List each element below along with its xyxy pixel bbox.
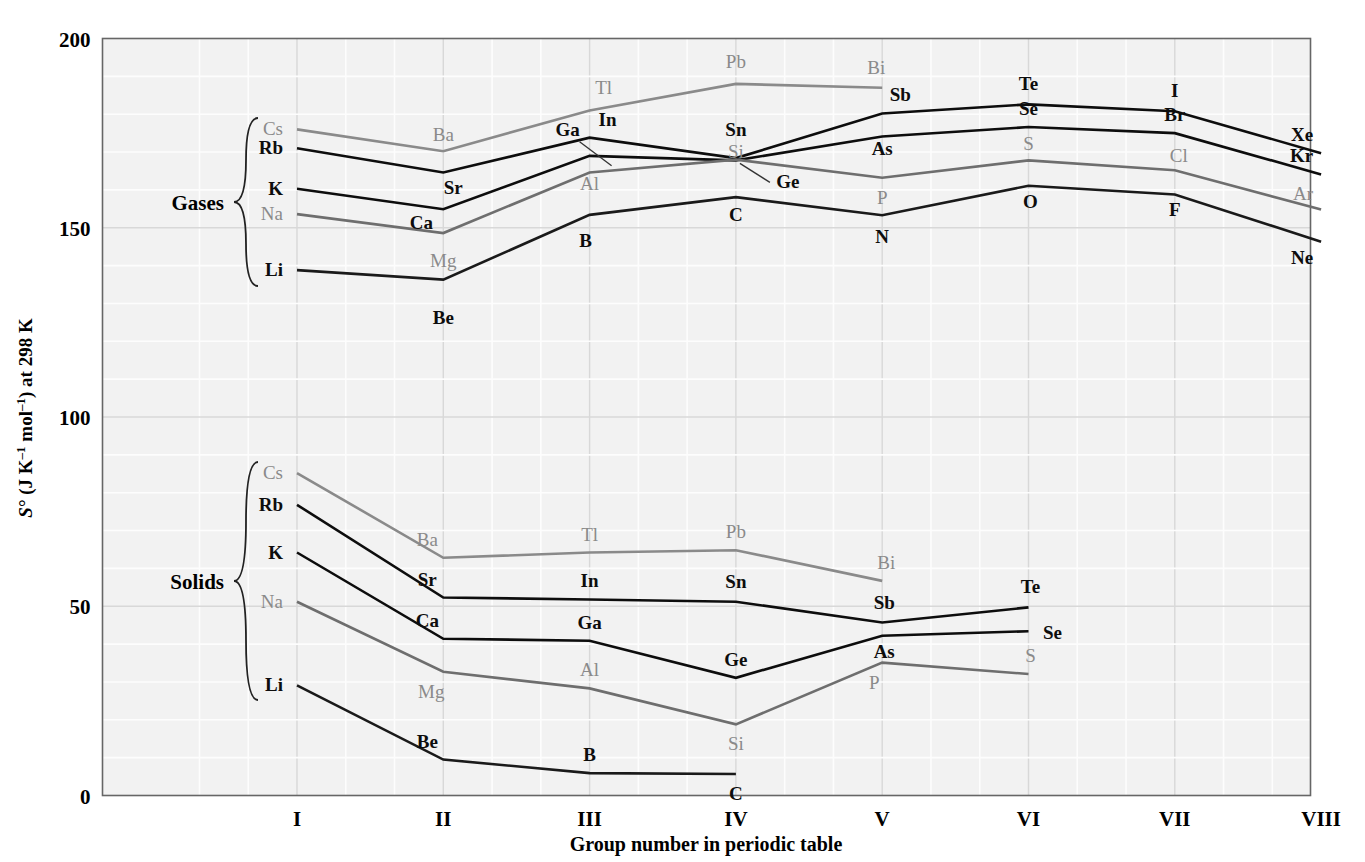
x-tick-label-VI: VI — [1017, 807, 1040, 831]
point-label-solid-Li: Li — [265, 674, 283, 695]
point-label-solid-Rb: Rb — [259, 494, 283, 515]
y-tick-label: 50 — [70, 595, 91, 619]
point-label-solid-Ga: Ga — [577, 612, 602, 633]
y-title-part: ) at 298 K — [15, 318, 37, 398]
point-label-solid-Na: Na — [261, 591, 284, 612]
point-label-solid-Sr: Sr — [418, 569, 438, 590]
point-label-solid-Bi: Bi — [877, 552, 895, 573]
point-label-gas-K: K — [268, 178, 283, 199]
x-tick-label-V: V — [875, 807, 890, 831]
point-label-gas-O: O — [1023, 191, 1038, 212]
entropy-vs-group-chart: 200150100500 IIIIIIIVVVIVIIVIII CsBaTlPb… — [0, 0, 1365, 862]
x-tick-label-IV: IV — [724, 807, 747, 831]
x-axis-title: Group number in periodic table — [570, 833, 843, 856]
x-tick-label-III: III — [577, 807, 602, 831]
point-label-solid-S: S — [1025, 645, 1036, 666]
y-title-part: –1 — [13, 398, 28, 412]
point-label-gas-P: P — [877, 187, 888, 208]
point-label-gas-Ar: Ar — [1293, 183, 1314, 204]
x-tick-label-I: I — [293, 807, 301, 831]
point-label-gas-Sb: Sb — [890, 84, 911, 105]
point-label-solid-P: P — [869, 672, 880, 693]
point-label-gas-F: F — [1169, 199, 1181, 220]
point-label-solid-Sn: Sn — [725, 571, 747, 592]
point-label-gas-Ca: Ca — [410, 212, 434, 233]
y-title-part: S — [15, 507, 36, 518]
x-tick-label-VIII: VIII — [1301, 807, 1341, 831]
point-label-solid-C: C — [729, 783, 743, 804]
point-label-solid-In: In — [581, 570, 599, 591]
point-label-gas-Ge: Ge — [776, 171, 799, 192]
point-label-gas-Li: Li — [265, 259, 283, 280]
point-label-gas-Ne: Ne — [1291, 247, 1313, 268]
point-label-gas-Te: Te — [1019, 73, 1038, 94]
point-label-gas-Kr: Kr — [1290, 145, 1314, 166]
point-label-solid-Ge: Ge — [724, 649, 747, 670]
point-label-solid-Al: Al — [580, 659, 599, 680]
point-label-solid-Se: Se — [1043, 622, 1062, 643]
point-label-gas-N: N — [875, 226, 889, 247]
point-label-solid-Ba: Ba — [417, 529, 439, 550]
point-label-gas-Xe: Xe — [1291, 124, 1313, 145]
point-label-solid-Be: Be — [417, 731, 438, 752]
gases-brace-label: Gases — [172, 191, 225, 215]
solids-brace-label: Solids — [170, 570, 224, 594]
y-axis-title: S° (J K–1 mol–1) at 298 K — [13, 318, 37, 518]
point-label-gas-Tl: Tl — [595, 77, 612, 98]
point-label-gas-Si: Si — [728, 141, 744, 162]
x-tick-label-II: II — [435, 807, 451, 831]
point-label-gas-Sr: Sr — [444, 177, 464, 198]
y-title-part: –1 — [13, 446, 28, 460]
point-label-gas-S: S — [1023, 133, 1034, 154]
point-label-gas-Rb: Rb — [259, 137, 283, 158]
point-label-gas-Pb: Pb — [726, 51, 746, 72]
y-tick-label: 200 — [59, 28, 91, 52]
point-label-gas-Se: Se — [1019, 98, 1038, 119]
point-label-gas-Be: Be — [433, 307, 454, 328]
point-label-solid-Cs: Cs — [263, 462, 283, 483]
point-label-solid-B: B — [583, 744, 596, 765]
y-tick-label: 0 — [80, 785, 91, 809]
point-label-gas-Br: Br — [1164, 104, 1186, 125]
point-label-gas-Al: Al — [580, 173, 599, 194]
x-tick-label-VII: VII — [1159, 807, 1191, 831]
point-label-solid-K: K — [268, 542, 283, 563]
point-label-gas-I: I — [1171, 80, 1178, 101]
point-label-solid-Te: Te — [1021, 576, 1040, 597]
point-label-solid-Ca: Ca — [416, 610, 440, 631]
point-label-gas-Ba: Ba — [433, 124, 455, 145]
point-label-gas-In: In — [599, 109, 617, 130]
point-label-gas-Na: Na — [261, 203, 284, 224]
y-title-part: (J K — [15, 459, 37, 499]
grid-lines — [103, 39, 1311, 796]
point-label-gas-Ga: Ga — [555, 119, 580, 140]
y-title-part: mol — [15, 411, 36, 446]
y-title-part: ° — [15, 499, 36, 507]
y-tick-label: 150 — [59, 217, 91, 241]
y-tick-label: 100 — [59, 406, 91, 430]
point-label-gas-Cs: Cs — [263, 118, 283, 139]
point-label-gas-Cl: Cl — [1170, 145, 1188, 166]
point-label-gas-C: C — [729, 204, 743, 225]
point-label-solid-Sb: Sb — [874, 592, 895, 613]
point-label-gas-Mg: Mg — [430, 250, 457, 271]
point-label-solid-Si: Si — [728, 733, 744, 754]
chart-stage: 200150100500 IIIIIIIVVVIVIIVIII CsBaTlPb… — [0, 0, 1365, 862]
point-label-solid-Mg: Mg — [418, 681, 445, 702]
point-label-solid-Pb: Pb — [726, 521, 746, 542]
point-label-solid-Tl: Tl — [581, 524, 598, 545]
point-label-gas-Bi: Bi — [867, 57, 885, 78]
point-label-gas-As: As — [872, 138, 893, 159]
point-label-solid-As: As — [874, 641, 895, 662]
point-label-gas-Sn: Sn — [725, 119, 747, 140]
point-label-gas-B: B — [579, 230, 592, 251]
